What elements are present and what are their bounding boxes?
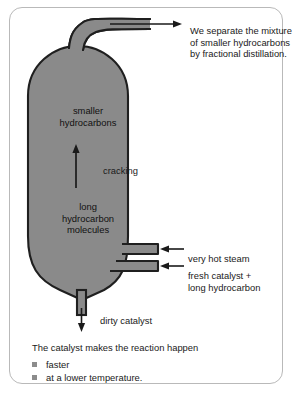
inlet-upper-arrow-head [160, 245, 169, 252]
inlet-lower-annotation: fresh catalyst + long hydrocarbon [188, 270, 294, 293]
catalyst-benefit-label: faster [46, 359, 69, 370]
bullet-square-icon [32, 375, 37, 380]
top-outlet-flow-arrow-head [173, 20, 182, 27]
catalyst-summary: The catalyst makes the reaction happen f… [32, 342, 282, 385]
inlet-pipe-upper [122, 244, 158, 254]
diagram-card: smaller hydrocarbons long hydrocarbon mo… [9, 7, 283, 384]
list-item: faster [32, 359, 282, 370]
vessel-top-contents-label: smaller hydrocarbons [36, 105, 140, 128]
top-outlet-annotation: We separate the mixture of smaller hydro… [190, 25, 294, 60]
catalyst-benefit-label: at a lower temperature. [46, 372, 142, 383]
inlet-pipe-lower [110, 261, 158, 271]
bottom-outlet-arrow-head [78, 323, 85, 332]
catalyst-summary-heading: The catalyst makes the reaction happen [32, 342, 282, 353]
list-item: at a lower temperature. [32, 372, 282, 383]
inlet-upper-annotation: very hot steam [188, 253, 249, 265]
inlet-lower-arrow-head [160, 262, 169, 269]
cracking-reactor-illustration [10, 8, 284, 385]
cracking-process-label: cracking [103, 165, 138, 177]
bottom-outlet-annotation: dirty catalyst [100, 315, 152, 327]
vessel-bottom-contents-label: long hydrocarbon molecules [36, 201, 140, 236]
bullet-square-icon [32, 362, 37, 367]
